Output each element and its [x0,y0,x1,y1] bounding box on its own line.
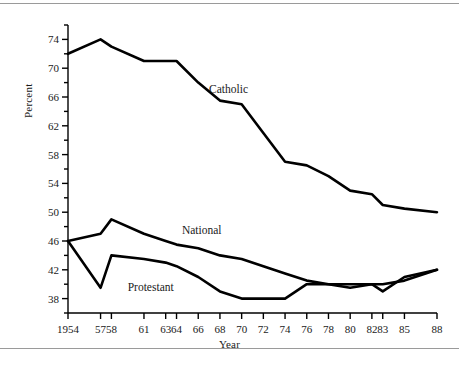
series-line-national [68,219,437,284]
line-chart: 3842465054586266707419545758616364666870… [0,0,459,366]
x-tick-label: 74 [280,323,292,335]
y-tick-label: 50 [48,206,60,218]
x-tick-label: 76 [301,323,313,335]
x-tick-label: 83 [377,323,389,335]
x-tick-label: 57 [95,323,107,335]
y-tick-label: 38 [48,293,60,305]
x-tick-label: 80 [345,323,357,335]
x-tick-label: 1954 [57,323,80,335]
y-tick-label: 70 [48,62,60,74]
y-tick-label: 54 [48,177,60,189]
series-label-protestant: Protestant [128,281,175,293]
x-tick-label: 82 [366,323,377,335]
x-tick-label: 68 [214,323,226,335]
y-tick-label: 46 [48,235,60,247]
x-tick-label: 58 [106,323,118,335]
figure-container: 3842465054586266707419545758616364666870… [0,0,459,366]
x-tick-label: 70 [236,323,248,335]
series-line-protestant [68,241,437,299]
x-tick-label: 85 [399,323,411,335]
x-tick-label: 66 [193,323,205,335]
series-line-catholic [68,39,437,212]
series-label-national: National [182,224,222,236]
y-tick-label: 42 [48,264,59,276]
y-tick-label: 66 [48,91,60,103]
x-tick-label: 72 [258,323,269,335]
x-tick-label: 78 [323,323,335,335]
x-axis-label: Year [0,338,459,350]
series-label-catholic: Catholic [209,83,248,95]
y-tick-label: 62 [48,120,59,132]
y-tick-label: 58 [48,149,60,161]
y-axis-label: Percent [22,84,34,118]
x-tick-label: 63 [160,323,172,335]
x-tick-label: 88 [432,323,444,335]
x-tick-label: 61 [138,323,149,335]
y-tick-label: 74 [48,33,60,45]
x-tick-label: 64 [171,323,183,335]
